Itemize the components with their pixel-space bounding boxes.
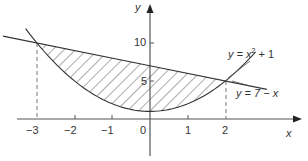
- line-label-leader: [232, 81, 250, 86]
- y-axis-label: y: [135, 2, 141, 13]
- y-tick-label-10: 10: [134, 37, 146, 48]
- x-axis-arrow-icon: [293, 116, 302, 123]
- x-tick-label-minus-3: −3: [26, 125, 39, 136]
- x-tick-label-minus-2: −2: [64, 125, 77, 136]
- x-tick-label-minus-1: −1: [101, 125, 114, 136]
- x-axis-label: x: [286, 128, 292, 139]
- y-axis-arrow-icon: [147, 4, 154, 13]
- shaded-region: [37, 43, 226, 111]
- diagram-canvas: [0, 0, 308, 161]
- x-tick-label-2: 2: [222, 125, 228, 136]
- parabola-equation-label: y = x2 + 1: [228, 47, 274, 60]
- line-equation-label: y = 7 − x: [236, 88, 278, 99]
- y-tick-label-5: 5: [141, 76, 147, 87]
- area-between-curves-diagram: y x 0 −3 −2 −1 1 2 10 5 y = x2 + 1 y = 7…: [0, 0, 308, 161]
- x-tick-label-1: 1: [185, 125, 191, 136]
- origin-label: 0: [140, 125, 146, 136]
- parabola-label-leader: [228, 61, 250, 78]
